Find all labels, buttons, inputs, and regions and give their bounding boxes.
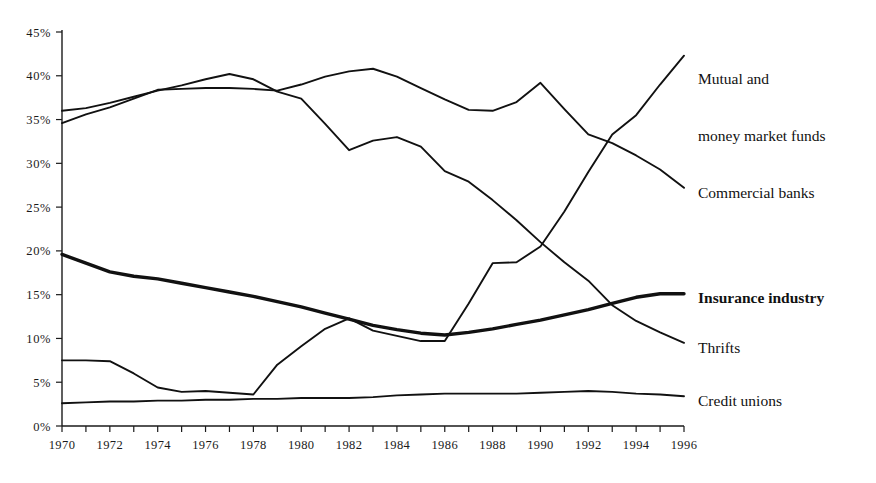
series-lines <box>62 56 684 404</box>
y-axis-tick-label: 10% <box>26 332 51 346</box>
series-line-mutual-and-money-market-funds <box>62 56 684 395</box>
x-axis-labels: 1970197219741976197819801982198419861988… <box>49 438 698 452</box>
chart-container: 0%5%10%15%20%25%30%35%40%45% 19701972197… <box>0 0 876 483</box>
series-label-commercial-banks: Commercial banks <box>698 183 815 202</box>
series-label-mutual-line1: Mutual and <box>698 69 825 88</box>
series-label-mutual-line2: money market funds <box>698 126 825 145</box>
x-axis-tick-label: 1994 <box>623 438 650 452</box>
y-axis-tick-label: 45% <box>26 26 51 40</box>
x-axis-tick-label: 1982 <box>336 438 363 452</box>
y-axis-tick-label: 5% <box>33 376 51 390</box>
y-axis-tick-label: 20% <box>26 244 51 258</box>
series-label-insurance-industry: Insurance industry <box>698 288 824 307</box>
x-axis-tick-label: 1996 <box>671 438 698 452</box>
x-axis-ticks <box>62 426 684 432</box>
x-axis-tick-label: 1976 <box>192 438 219 452</box>
x-axis-tick-label: 1972 <box>97 438 124 452</box>
series-line-insurance-industry <box>62 254 684 335</box>
x-axis-tick-label: 1974 <box>144 438 171 452</box>
x-axis-tick-label: 1984 <box>384 438 411 452</box>
series-line-thrifts <box>62 74 684 343</box>
y-axis-ticks <box>56 32 62 426</box>
x-axis-tick-label: 1986 <box>431 438 458 452</box>
series-label-thrifts: Thrifts <box>698 338 740 357</box>
x-axis-tick-label: 1988 <box>479 438 506 452</box>
x-axis-tick-label: 1990 <box>527 438 554 452</box>
x-axis-tick-label: 1978 <box>240 438 267 452</box>
y-axis-tick-label: 25% <box>26 201 51 215</box>
y-axis-tick-label: 0% <box>33 420 51 434</box>
y-axis-tick-label: 15% <box>26 288 51 302</box>
x-axis-tick-label: 1992 <box>575 438 602 452</box>
y-axis-labels: 0%5%10%15%20%25%30%35%40%45% <box>26 26 51 434</box>
y-axis-tick-label: 40% <box>26 69 51 83</box>
y-axis-tick-label: 30% <box>26 157 51 171</box>
x-axis-tick-label: 1980 <box>288 438 315 452</box>
y-axis-tick-label: 35% <box>26 113 51 127</box>
x-axis-tick-label: 1970 <box>49 438 76 452</box>
series-label-mutual-and-money-market-funds: Mutual and money market funds <box>698 31 825 183</box>
series-label-credit-unions: Credit unions <box>698 391 782 410</box>
series-line-credit-unions <box>62 391 684 403</box>
